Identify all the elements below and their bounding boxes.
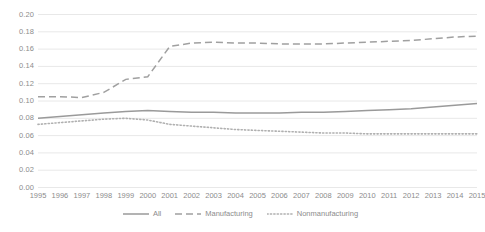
x-axis-tick-label: 2011 <box>381 192 397 200</box>
legend-item-nonmanufacturing[interactable]: Nonmanufacturing <box>267 210 358 218</box>
x-axis-tick-label: 2005 <box>249 192 266 200</box>
legend-label: Nonmanufacturing <box>297 210 358 218</box>
legend-swatch-dotted <box>267 210 293 218</box>
x-axis-tick-label: 2007 <box>293 192 310 200</box>
x-axis-tick-label: 2009 <box>337 192 354 200</box>
x-axis-tick-label: 2013 <box>425 192 442 200</box>
x-axis-tick-label: 1998 <box>96 192 113 200</box>
x-axis-tick-label: 2001 <box>161 192 178 200</box>
x-axis-tick-label: 2002 <box>183 192 200 200</box>
x-axis-tick-label: 2006 <box>271 192 288 200</box>
x-axis-tick-label: 1995 <box>30 192 47 200</box>
legend-swatch-solid <box>123 210 149 218</box>
x-axis-tick-label: 2015 <box>469 192 485 200</box>
x-axis-tick-label: 2003 <box>205 192 222 200</box>
x-axis-tick-label: 2014 <box>447 192 464 200</box>
x-axis-tick-label: 2008 <box>315 192 332 200</box>
x-axis-tick-label: 2004 <box>227 192 244 200</box>
chart-legend: AllManufacturingNonmanufacturing <box>0 210 481 218</box>
x-axis-tick-label: 1999 <box>117 192 134 200</box>
legend-item-manufacturing[interactable]: Manufacturing <box>175 210 253 218</box>
legend-item-all[interactable]: All <box>123 210 161 218</box>
series-line-nonmanufacturing <box>38 118 477 134</box>
x-axis-tick-label: 2012 <box>403 192 420 200</box>
x-axis-tick-label: 1997 <box>74 192 91 200</box>
x-axis-tick-label: 2000 <box>139 192 156 200</box>
gridlines <box>38 15 477 188</box>
data-series <box>38 36 477 134</box>
series-line-all <box>38 104 477 119</box>
legend-label: Manufacturing <box>205 210 253 218</box>
legend-label: All <box>153 210 161 218</box>
legend-swatch-dashed <box>175 210 201 218</box>
x-axis-tick-label: 2010 <box>359 192 376 200</box>
x-axis-tick-label: 1996 <box>52 192 69 200</box>
